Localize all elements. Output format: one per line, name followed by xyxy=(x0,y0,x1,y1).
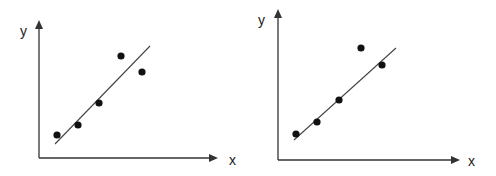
data-point xyxy=(357,44,364,51)
data-point xyxy=(117,52,124,59)
y-axis-arrow-icon xyxy=(35,20,43,29)
data-point xyxy=(313,118,320,125)
y-axis-label: y xyxy=(258,12,265,28)
data-point xyxy=(53,131,60,138)
y-axis-label: y xyxy=(20,23,27,39)
scatter-figure: yx yx xyxy=(0,0,496,176)
scatter-chart-left: yx xyxy=(20,20,236,168)
data-point xyxy=(95,99,102,106)
data-point xyxy=(74,121,81,128)
regression-line xyxy=(55,46,150,144)
data-point xyxy=(378,61,385,68)
data-point xyxy=(138,68,145,75)
x-axis-label: x xyxy=(229,152,236,168)
data-point xyxy=(335,96,342,103)
x-axis-arrow-icon xyxy=(451,156,460,164)
data-point xyxy=(292,130,299,137)
x-axis-label: x xyxy=(468,153,475,169)
x-axis-arrow-icon xyxy=(209,154,218,162)
scatter-chart-right: yx xyxy=(258,9,475,169)
y-axis-arrow-icon xyxy=(274,9,282,18)
